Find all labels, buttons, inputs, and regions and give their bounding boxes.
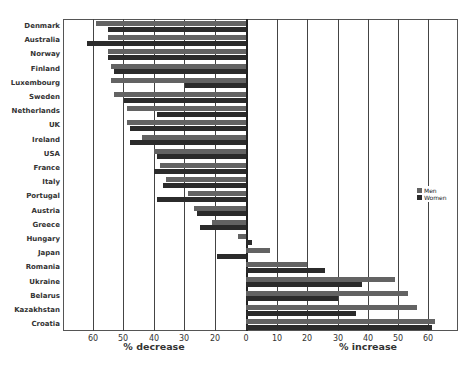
category-label: Greece: [32, 221, 60, 229]
bar-women: [185, 83, 247, 88]
category-label: Netherlands: [12, 107, 60, 115]
bar-women: [163, 183, 246, 188]
category-label: Ukraine: [29, 278, 60, 286]
category-label: Croatia: [31, 320, 60, 328]
bar-men: [246, 319, 435, 324]
gridline: [368, 19, 369, 331]
bar-women: [246, 296, 338, 301]
bar-men: [212, 220, 246, 225]
bar-men: [127, 106, 246, 111]
bar-men: [166, 177, 246, 182]
category-label: Kazakhstan: [14, 306, 60, 314]
x-tick-label: 20: [302, 334, 312, 343]
women-swatch-icon: [417, 195, 422, 200]
category-label: Belarus: [30, 292, 60, 300]
bar-women: [246, 325, 432, 330]
legend-item-men: Men: [417, 187, 447, 194]
bar-men: [111, 78, 246, 83]
x-tick-label: 60: [423, 334, 433, 343]
bar-men: [246, 262, 307, 267]
legend-item-women: Women: [417, 194, 447, 201]
category-label: Japan: [38, 249, 60, 257]
bar-men: [194, 206, 246, 211]
category-label: Denmark: [24, 22, 60, 30]
category-label: Portugal: [26, 192, 60, 200]
category-label: Norway: [30, 50, 60, 58]
bar-women: [130, 126, 246, 131]
x-tick-label: 60: [88, 334, 98, 343]
bar-men: [114, 92, 246, 97]
bar-women: [130, 140, 246, 145]
category-label: Finland: [31, 65, 60, 73]
category-label: USA: [44, 150, 60, 158]
category-label: Luxembourg: [11, 79, 60, 87]
bar-men: [142, 135, 246, 140]
category-label: Austria: [32, 207, 61, 215]
bar-men: [238, 234, 246, 239]
category-label: Ireland: [32, 136, 60, 144]
bar-men: [246, 248, 270, 253]
x-tick-label: 0: [243, 334, 248, 343]
bar-women: [246, 268, 325, 273]
bar-women: [157, 112, 246, 117]
gridline: [428, 19, 429, 331]
bar-women: [154, 169, 246, 174]
x-tick-label: 10: [272, 334, 282, 343]
category-label: Italy: [42, 178, 60, 186]
category-label: Hungary: [26, 235, 60, 243]
category-label: UK: [49, 121, 60, 129]
bar-women: [246, 282, 362, 287]
gridline: [93, 19, 94, 331]
bar-men: [111, 64, 246, 69]
category-label: France: [34, 164, 60, 172]
bar-women: [197, 211, 246, 216]
x-axis-label-decrease: % decrease: [123, 341, 184, 352]
bar-men: [127, 120, 246, 125]
bar-men: [188, 191, 246, 196]
bar-women: [87, 41, 246, 46]
category-label: Romania: [26, 263, 60, 271]
bar-men: [246, 305, 417, 310]
bar-women: [157, 197, 246, 202]
bar-men: [96, 21, 246, 26]
bar-women: [124, 98, 247, 103]
bar-women: [157, 154, 246, 159]
legend: Men Women: [415, 186, 449, 202]
x-tick-label: 20: [210, 334, 220, 343]
gridline: [398, 19, 399, 331]
bar-men: [246, 291, 408, 296]
bar-women: [200, 225, 246, 230]
bar-women: [108, 27, 246, 32]
category-label: Sweden: [29, 93, 60, 101]
bar-women: [114, 69, 246, 74]
legend-label-men: Men: [424, 187, 437, 194]
bar-men: [160, 163, 246, 168]
bar-men: [108, 35, 246, 40]
category-label: Australia: [24, 36, 60, 44]
men-swatch-icon: [417, 188, 422, 193]
bar-women: [217, 254, 246, 259]
x-axis-label-increase: % increase: [339, 341, 397, 352]
bar-women: [108, 55, 246, 60]
bar-women: [246, 311, 356, 316]
bar-men: [154, 149, 246, 154]
bar-women: [246, 240, 252, 245]
bar-men: [246, 277, 395, 282]
legend-label-women: Women: [424, 194, 447, 201]
bar-men: [108, 49, 246, 54]
